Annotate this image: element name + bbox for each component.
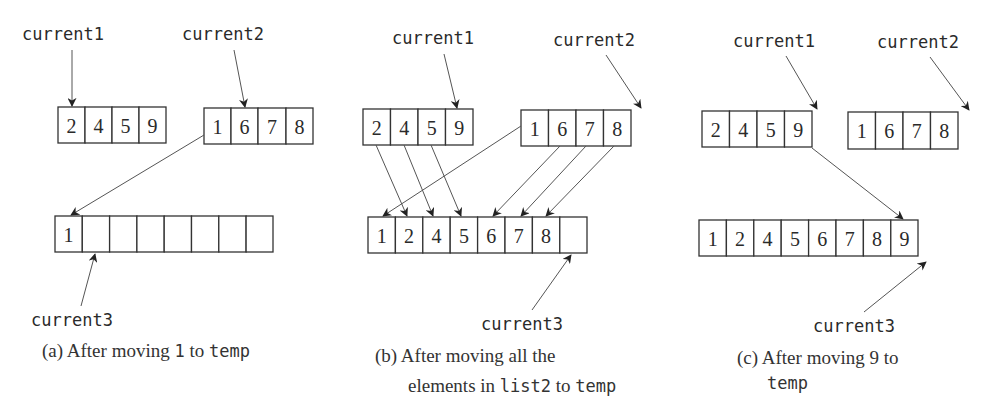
temp-cell: 4 [763, 228, 773, 250]
current2-label: current2 [182, 24, 264, 44]
list2-cell: 1 [530, 118, 540, 140]
temp-array: 1 [55, 216, 273, 252]
temp-cell: 4 [432, 225, 442, 247]
list1-cell: 4 [738, 119, 748, 141]
move-arrow [431, 145, 461, 216]
list1: 2 4 5 9 [702, 111, 812, 147]
list1-cell: 5 [766, 119, 776, 141]
current1-label: current1 [22, 24, 104, 44]
list1: 2 4 5 9 [363, 109, 473, 145]
list2-cell: 7 [912, 120, 922, 142]
temp-cell: 5 [459, 225, 469, 247]
current2-arrow [930, 57, 969, 110]
panel-b: current1 current2 2 4 5 9 1 6 7 8 [363, 28, 641, 396]
move-arrow [493, 146, 560, 216]
caption-c-line1: (c) After moving 9 to [737, 347, 898, 369]
list2-cell: 6 [240, 116, 250, 138]
current1-label: current1 [392, 28, 474, 48]
move-arrow [521, 146, 586, 216]
list2-cell: 1 [857, 120, 867, 142]
panel-a: current1 current2 2 4 5 9 1 6 7 8 [22, 24, 313, 362]
list2: 1 6 7 8 [204, 108, 313, 144]
list1-cell: 9 [148, 115, 158, 137]
list2: 1 6 7 8 [521, 110, 631, 146]
list1-cell: 4 [94, 115, 104, 137]
merge-diagram: current1 current2 2 4 5 9 1 6 7 8 [0, 0, 997, 412]
move-arrow [376, 145, 407, 216]
move-arrow [546, 146, 614, 216]
move-arrow [812, 148, 903, 219]
temp-cell: 1 [708, 228, 718, 250]
list2-cell: 6 [557, 118, 567, 140]
caption-c-line2: temp [767, 373, 808, 393]
list2: 1 6 7 8 [848, 112, 958, 149]
temp-cell: 1 [64, 224, 74, 246]
move-arrow [404, 145, 433, 216]
list2-cell: 8 [295, 116, 305, 138]
current3-arrow [81, 254, 95, 306]
current3-label: current3 [481, 314, 563, 334]
temp-cell: 8 [872, 228, 882, 250]
temp-cell: 2 [404, 225, 414, 247]
caption-b-line1: (b) After moving all the [375, 345, 555, 367]
current2-arrow [234, 50, 245, 107]
list2-cell: 8 [939, 120, 949, 142]
current2-arrow [606, 55, 641, 108]
temp-cell: 6 [817, 228, 827, 250]
list1-cell: 4 [399, 117, 409, 139]
current1-label: current1 [733, 31, 815, 51]
current2-label: current2 [877, 32, 959, 52]
list1-cell: 2 [372, 117, 382, 139]
caption-b-line2: elements in list2 to temp [408, 375, 616, 396]
temp-array: 1 2 4 5 6 7 8 9 [699, 220, 918, 256]
panel-c: current1 current2 2 4 5 9 1 6 7 8 [699, 31, 969, 393]
temp-cell: 6 [486, 225, 496, 247]
list1-cell: 5 [427, 117, 437, 139]
caption-a: (a) After moving 1 to temp [42, 340, 250, 362]
list2-cell: 8 [612, 118, 622, 140]
list1-cell: 5 [121, 115, 131, 137]
temp-cell: 2 [735, 228, 745, 250]
current3-label: current3 [31, 310, 113, 330]
temp-array: 1 2 4 5 6 7 8 [368, 217, 587, 253]
list1-cell: 9 [454, 117, 464, 139]
temp-cell: 9 [899, 228, 909, 250]
current1-arrow [444, 54, 457, 108]
list2-cell: 7 [585, 118, 595, 140]
move-arrow [71, 135, 204, 215]
list1-cell: 2 [67, 115, 77, 137]
list2-cell: 7 [267, 116, 277, 138]
list1-cell: 9 [793, 119, 803, 141]
temp-cell: 1 [377, 225, 387, 247]
list1: 2 4 5 9 [58, 107, 166, 143]
temp-cell: 8 [541, 225, 551, 247]
temp-cell: 7 [845, 228, 855, 250]
current3-arrow [532, 255, 571, 310]
temp-cell: 5 [790, 228, 800, 250]
list2-cell: 6 [884, 120, 894, 142]
current3-arrow [864, 262, 926, 312]
current2-label: current2 [553, 30, 635, 50]
list1-cell: 2 [711, 119, 721, 141]
list2-cell: 1 [213, 116, 223, 138]
current3-label: current3 [813, 316, 895, 336]
temp-cell: 7 [514, 225, 524, 247]
current1-arrow [786, 56, 817, 109]
